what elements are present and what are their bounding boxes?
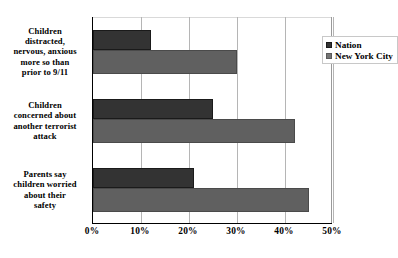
bar-nyc-2: [93, 188, 309, 212]
legend-swatch-nation-icon: [326, 42, 332, 48]
category-label-line: nervous, anxious: [0, 46, 90, 56]
x-tick-label-0pct: 0%: [72, 226, 112, 236]
bar-nation-0: [93, 30, 151, 50]
x-tick-label-10pct: 10%: [120, 226, 160, 236]
category-label-children-concerned: Childrenconcerned aboutanother terrorist…: [0, 100, 90, 142]
category-label-line: Children: [0, 100, 90, 110]
category-label-children-distracted: Childrendistracted,nervous, anxiousmore …: [0, 26, 90, 78]
category-label-line: attack: [0, 131, 90, 141]
bottom-margin-strip: [0, 248, 347, 258]
legend-label-new-york-city: New York City: [335, 51, 393, 61]
x-tick-label-30pct: 30%: [216, 226, 256, 236]
legend-swatch-new-york-city-icon: [326, 53, 332, 59]
x-tick-label-20pct: 20%: [168, 226, 208, 236]
legend: Nation New York City: [322, 36, 398, 64]
category-label-line: children worried: [0, 179, 90, 189]
bar-nyc-1: [93, 119, 295, 143]
category-label-line: another terrorist: [0, 121, 90, 131]
category-label-line: more so than: [0, 57, 90, 67]
x-axis-tick-labels: 0%10%20%30%40%50%: [92, 226, 332, 244]
category-label-line: safety: [0, 200, 90, 210]
category-label-line: concerned about: [0, 110, 90, 120]
bar-nyc-0: [93, 50, 237, 74]
x-tick-label-40pct: 40%: [264, 226, 304, 236]
legend-item-nation: Nation: [326, 39, 393, 50]
category-label-line: distracted,: [0, 36, 90, 46]
plot-area: Nation New York City: [92, 17, 332, 224]
bar-nation-2: [93, 168, 194, 188]
category-label-parents-say: Parents saychildren worriedabout theirsa…: [0, 169, 90, 211]
legend-item-new-york-city: New York City: [326, 50, 393, 61]
x-tick-label-50pct: 50%: [312, 226, 352, 236]
category-label-line: about their: [0, 190, 90, 200]
category-axis-labels: Childrendistracted,nervous, anxiousmore …: [0, 17, 92, 224]
category-label-line: Parents say: [0, 169, 90, 179]
legend-label-nation: Nation: [335, 40, 362, 50]
plot-top-border: [93, 17, 332, 18]
category-label-line: Children: [0, 26, 90, 36]
category-label-line: prior to 9/11: [0, 67, 90, 77]
bar-nation-1: [93, 99, 213, 119]
